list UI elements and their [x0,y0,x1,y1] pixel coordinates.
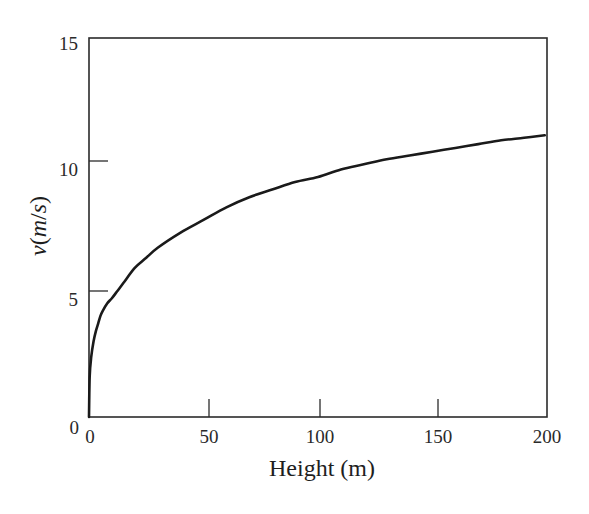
plot-frame [89,38,547,417]
y-label-open: ( [25,237,51,245]
x-tick-label-100: 100 [306,426,335,447]
y-label-m: m [25,220,51,237]
y-tick-label-15: 15 [59,33,78,54]
y-tick-labels: 15 10 5 0 [59,33,79,438]
y-ticks [89,161,108,291]
x-tick-label-150: 150 [424,426,453,447]
x-ticks [209,399,438,417]
x-tick-label-0: 0 [85,426,95,447]
y-label-v: v [25,245,51,256]
velocity-curve [89,135,545,417]
y-axis-label: v(m/s) [25,196,51,256]
y-tick-label-5: 5 [69,289,79,310]
x-tick-label-50: 50 [200,426,219,447]
y-tick-label-0: 0 [70,417,80,438]
x-tick-label-200: 200 [533,426,562,447]
x-axis-label: Height (m) [269,455,375,481]
y-label-close: ) [25,196,51,204]
y-label-s: s [25,204,51,213]
chart: 15 10 5 0 0 50 100 150 200 Height (m) v(… [0,0,589,514]
y-tick-label-10: 10 [59,159,78,180]
x-tick-labels: 0 50 100 150 200 [85,426,561,447]
